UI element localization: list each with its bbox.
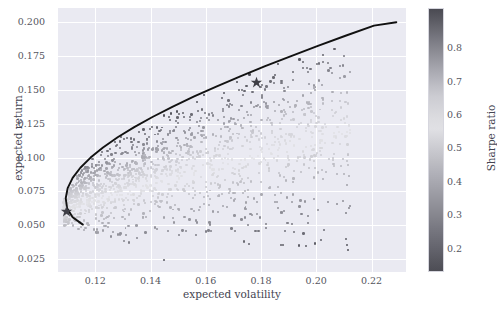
colorbar-tick-label: 0.5 (447, 142, 462, 153)
x-tick-label: 0.12 (85, 275, 106, 286)
colorbar-tick-label: 0.6 (447, 109, 462, 120)
x-axis-label: expected volatility (58, 288, 406, 300)
y-tick-label: 0.200 (18, 16, 45, 27)
colorbar-tick-label: 0.4 (447, 176, 462, 187)
y-tick-label: 0.050 (18, 219, 45, 230)
x-axis-tick-labels: 0.120.140.160.180.200.22 (0, 275, 491, 289)
max-sharpe-star-marker (250, 76, 263, 89)
y-axis-label: expected return (12, 68, 24, 208)
y-tick-label: 0.175 (18, 50, 45, 61)
colorbar-tick-label: 0.2 (447, 243, 462, 254)
y-axis-tick-labels: 0.0250.0500.0750.1000.1250.1500.1750.200 (0, 0, 53, 322)
colorbar-tick-label: 0.8 (447, 42, 462, 53)
colorbar-label: Sharpe ratio (485, 68, 497, 208)
y-tick-label: 0.025 (18, 253, 45, 264)
efficient-frontier-curve (58, 8, 406, 272)
colorbar (428, 8, 444, 272)
x-tick-label: 0.20 (306, 275, 327, 286)
colorbar-tick-labels: 0.80.70.60.50.40.30.2 (447, 0, 477, 322)
x-tick-label: 0.22 (361, 275, 382, 286)
min-volatility-star-marker (60, 205, 73, 218)
x-tick-label: 0.18 (250, 275, 271, 286)
plot-area (58, 8, 406, 272)
x-tick-label: 0.16 (195, 275, 216, 286)
colorbar-gradient (429, 9, 443, 271)
colorbar-tick-label: 0.3 (447, 209, 462, 220)
colorbar-tick-label: 0.7 (447, 76, 462, 87)
x-tick-label: 0.14 (140, 275, 161, 286)
